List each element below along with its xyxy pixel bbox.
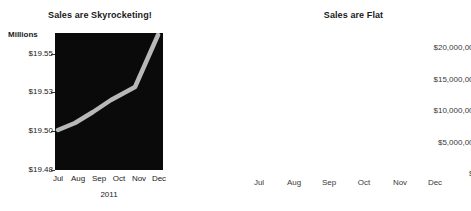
x-tick-label-left-2: Sep <box>92 174 106 183</box>
chart-title-right: Sales are Flat <box>236 10 471 20</box>
x-tick-label-right-4: Nov <box>393 178 407 187</box>
x-tick-label-left-4: Nov <box>132 174 146 183</box>
y-tick-label-right-0: $20,000,000 <box>414 43 471 52</box>
chart-title-left: Sales are Skyrocketing! <box>0 10 200 20</box>
x-tick-label-right-1: Aug <box>287 178 301 187</box>
x-tick-label-left-3: Oct <box>113 174 125 183</box>
y-axis-unit-label-left: Millions <box>8 30 38 39</box>
y-tick-mark-left-3 <box>51 170 55 171</box>
y-tick-label-right-4: $0 <box>414 169 471 178</box>
chart-panel-flat: Sales are Flat $20,000,000 $15,000,000 $… <box>236 0 471 211</box>
x-axis-title-left: 2011 <box>100 190 117 199</box>
y-tick-label-right-1: $15,000,000 <box>414 75 471 84</box>
y-tick-label-left-1: $19.53 <box>5 87 53 96</box>
y-tick-label-left-2: $19.50 <box>5 126 53 135</box>
x-tick-label-left-1: Aug <box>71 174 85 183</box>
y-tick-label-right-2: $10,000,000 <box>414 106 471 115</box>
y-tick-label-left-3: $19.48 <box>5 165 53 174</box>
chart-panel-skyrocketing: Sales are Skyrocketing! Millions $19.55 … <box>0 0 236 211</box>
plot-area-left <box>55 33 163 170</box>
y-tick-label-left-0: $19.55 <box>5 49 53 58</box>
x-tick-label-right-5: Dec <box>428 178 442 187</box>
x-tick-label-right-3: Oct <box>358 178 370 187</box>
x-tick-label-left-5: Dec <box>152 174 166 183</box>
line-series-left <box>55 33 163 170</box>
x-tick-label-right-0: Jul <box>254 178 264 187</box>
y-tick-label-right-3: $5,000,000 <box>414 138 471 147</box>
x-tick-label-right-2: Sep <box>322 178 336 187</box>
x-tick-label-left-0: Jul <box>53 174 63 183</box>
